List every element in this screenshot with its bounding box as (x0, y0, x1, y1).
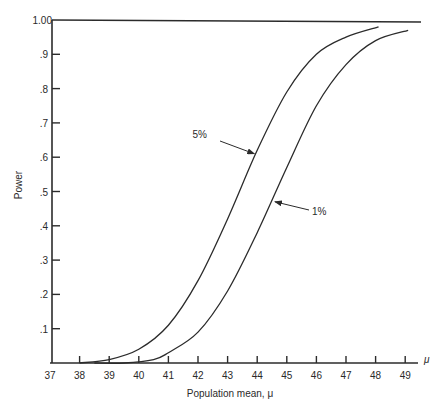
x-axis-end-label: μ (423, 354, 430, 365)
y-tick-label: .8 (40, 84, 49, 95)
axes: .1.2.3.4.5.6.7.8.91.00373839404142434445… (33, 15, 421, 381)
y-tick-label: .5 (40, 187, 49, 198)
x-axis-title: Population mean, μ (187, 388, 274, 399)
x-tick-label: 41 (163, 370, 175, 381)
x-tick-label: 40 (133, 370, 145, 381)
power-curve-5pct (80, 27, 379, 363)
y-tick-label: .2 (40, 289, 49, 300)
x-tick-label: 46 (311, 370, 323, 381)
y-tick-label: 1.00 (33, 15, 53, 26)
x-tick-label: 45 (281, 370, 293, 381)
curve-annotations: 5%1% (193, 129, 327, 217)
annotation-label-5pct: 5% (193, 129, 208, 140)
x-tick-label: 42 (192, 370, 204, 381)
reference-line-1 (52, 20, 421, 22)
x-tick-label: 48 (370, 370, 382, 381)
y-tick-label: .6 (40, 152, 49, 163)
annotation-arrow (275, 202, 309, 210)
power-curve-1pct (94, 30, 408, 363)
x-tick-label: 44 (252, 370, 264, 381)
x-tick-label: 37 (44, 370, 56, 381)
annotation-arrow (220, 141, 254, 154)
y-tick-label: .3 (40, 255, 49, 266)
power-curve-chart: .1.2.3.4.5.6.7.8.91.00373839404142434445… (0, 0, 441, 413)
y-tick-label: .1 (40, 324, 49, 335)
annotation-label-1pct: 1% (312, 206, 327, 217)
power-curves (80, 27, 409, 363)
y-tick-label: .9 (40, 49, 49, 60)
y-tick-label: .7 (40, 118, 49, 129)
x-tick-label: 49 (400, 370, 412, 381)
y-tick-label: .4 (40, 221, 49, 232)
x-tick-label: 39 (104, 370, 116, 381)
x-tick-label: 38 (74, 370, 86, 381)
y-axis-title: Power (13, 170, 24, 199)
x-tick-label: 43 (222, 370, 234, 381)
x-tick-label: 47 (340, 370, 352, 381)
